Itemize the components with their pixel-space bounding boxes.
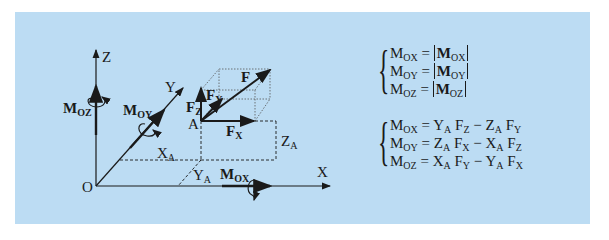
magnitude-equations: MOX = MOX MOY = MOY MOZ = MOZ <box>390 44 468 98</box>
equation-row: MOZ = MOZ <box>390 80 468 98</box>
moment-ox-label: MOX <box>220 167 249 184</box>
force-label: F <box>241 70 250 85</box>
brace-components: { <box>378 116 389 168</box>
xa-label: XA <box>157 146 175 163</box>
za-label: ZA <box>281 134 297 151</box>
component-equations: MOX = YA FZ − ZA FY MOY = ZA FX − XA FZ … <box>390 116 523 170</box>
force-y-label: FY <box>206 88 222 105</box>
moment-oz-label: MOZ <box>63 101 92 118</box>
equation-row: MOY = ZA FX − XA FZ <box>390 134 523 152</box>
ya-label: YA <box>193 168 211 185</box>
equation-row: MOX = MOX <box>390 44 468 62</box>
origin-label: O <box>82 180 93 195</box>
force-z-label: FZ <box>186 100 202 117</box>
equation-row: MOZ = XA FY − YA FX <box>390 152 523 170</box>
force-x-label: FX <box>226 124 242 141</box>
x-axis-label: X <box>317 165 328 180</box>
y-axis-label: Y <box>165 80 176 95</box>
equation-row: MOY = MOY <box>390 62 468 80</box>
point-a-label: A <box>188 117 199 132</box>
z-axis-label: Z <box>102 50 111 65</box>
equation-row: MOX = YA FZ − ZA FY <box>390 116 523 134</box>
brace-magnitudes: { <box>378 44 389 96</box>
moment-oy-label: MOY <box>123 103 152 120</box>
